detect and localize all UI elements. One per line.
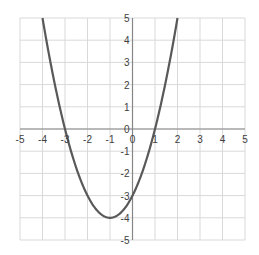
x-tick-label: 0 [130,134,136,145]
y-tick-label: -3 [121,191,130,202]
x-tick-label: -4 [38,134,47,145]
x-tick-label: -1 [106,134,115,145]
x-tick-label: 1 [152,134,158,145]
y-tick-label: -4 [121,213,130,224]
parabola-chart: -5-4-3-2-1012345 -5-4-3-2-1012345 [0,0,259,255]
x-tick-label: -5 [16,134,25,145]
y-tick-label: 2 [124,80,130,91]
y-tick-label: -1 [121,146,130,157]
x-tick-label: -2 [83,134,92,145]
y-tick-label: 3 [124,57,130,68]
y-tick-label: -5 [121,235,130,246]
axes [20,18,245,240]
y-tick-label: 0 [124,124,130,135]
x-tick-label: 3 [197,134,203,145]
x-tick-label: 2 [175,134,181,145]
x-axis-tick-labels: -5-4-3-2-1012345 [16,134,249,145]
y-tick-label: 4 [124,35,130,46]
y-tick-label: 5 [124,13,130,24]
x-tick-label: 4 [220,134,226,145]
x-tick-label: -3 [61,134,70,145]
y-tick-label: -2 [121,168,130,179]
y-tick-label: 1 [124,102,130,113]
x-tick-label: 5 [242,134,248,145]
